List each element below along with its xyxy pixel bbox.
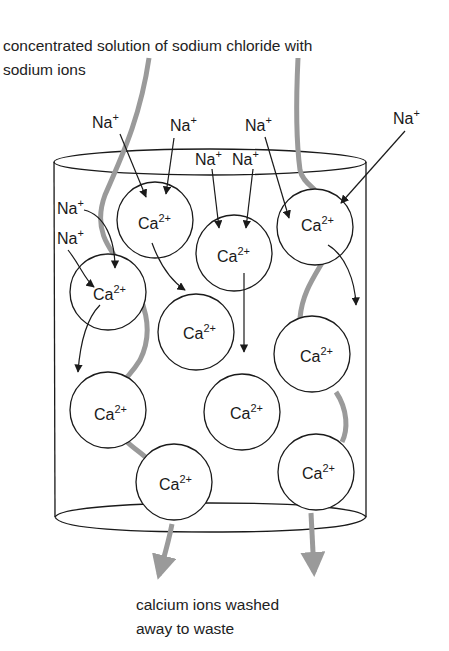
sodium-label-1: Na+ [92, 111, 119, 131]
sodium-label-4: Na+ [393, 107, 420, 127]
ion-exchange-diagram: concentrated solution of sodium chloride… [0, 0, 449, 651]
right-flow-path-lower [336, 392, 346, 442]
sodium-label-7: Na+ [57, 197, 84, 217]
bottom-caption-line-2: away to waste [136, 620, 234, 637]
right-flow-path [297, 58, 315, 190]
right-outflow [311, 513, 314, 572]
sodium-label-3: Na+ [245, 114, 272, 134]
top-caption-line-2: sodium ions [3, 61, 86, 78]
arrow-na3-to-ca3 [265, 137, 289, 218]
arrow-na4-to-ca3 [341, 131, 405, 203]
arrow-na1-to-ca1 [120, 134, 146, 197]
sodium-label-2: Na+ [170, 114, 197, 134]
right-flow-path-mid [300, 263, 322, 318]
top-caption-line-1: concentrated solution of sodium chloride… [3, 37, 312, 54]
sodium-label-6: Na+ [232, 148, 259, 168]
column-left-wall [54, 162, 55, 517]
sodium-label-8: Na+ [57, 227, 84, 247]
bottom-caption-line-1: calcium ions washed [136, 596, 279, 613]
sodium-label-5: Na+ [195, 148, 222, 168]
